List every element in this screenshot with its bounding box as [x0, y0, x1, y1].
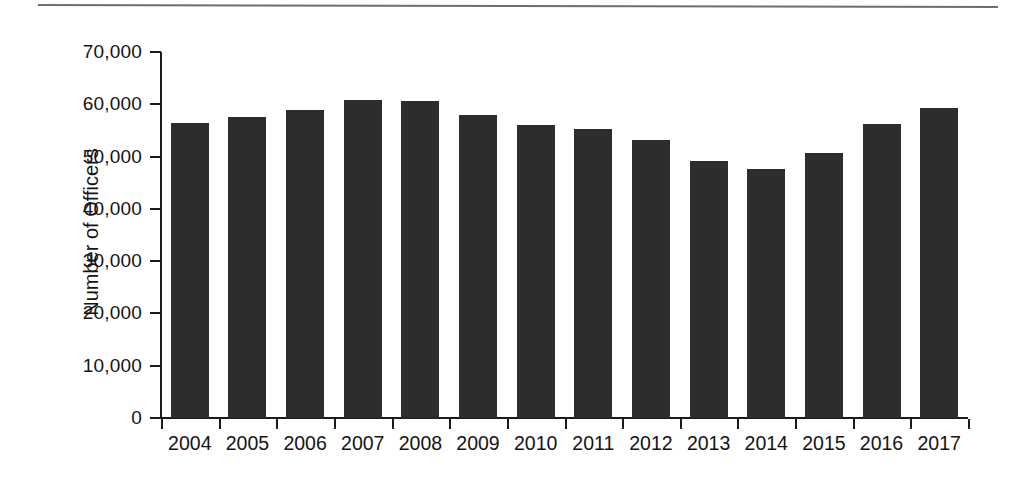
plot-area: Number of Officers 70,00060,00050,00040,…	[0, 0, 1011, 482]
y-axis-tick-label: 30,000	[38, 251, 142, 270]
y-axis-tick-label: 20,000	[38, 303, 142, 322]
y-axis-tick-label: 40,000	[38, 199, 142, 218]
x-axis-tick-mark	[853, 419, 855, 429]
y-axis-tick-mark	[150, 312, 161, 314]
bar	[459, 115, 497, 418]
y-axis-tick-label-wrap: 30,000	[38, 251, 142, 270]
bar	[286, 110, 324, 418]
x-axis-tick-label: 2017	[904, 432, 974, 454]
y-axis-tick-label-wrap: 0	[38, 408, 142, 427]
bar	[401, 101, 439, 418]
x-axis-tick-mark	[507, 419, 509, 429]
figure-bar-chart-number-of-officers: Number of Officers 70,00060,00050,00040,…	[0, 0, 1011, 482]
x-axis-tick-mark	[565, 419, 567, 429]
y-axis-tick-label: 60,000	[38, 94, 142, 113]
bar	[574, 129, 612, 418]
bar	[344, 100, 382, 418]
y-axis-tick-label: 70,000	[38, 42, 142, 61]
bar	[747, 169, 785, 418]
x-axis-tick-mark	[449, 419, 451, 429]
y-axis-tick-label-wrap: 10,000	[38, 356, 142, 375]
y-axis-tick-label: 10,000	[38, 356, 142, 375]
y-axis-tick-mark	[150, 417, 161, 419]
bar	[228, 117, 266, 418]
x-axis-tick-mark	[680, 419, 682, 429]
x-axis-tick-mark	[392, 419, 394, 429]
y-axis-tick-label-wrap: 70,000	[38, 42, 142, 61]
x-axis-tick-mark	[795, 419, 797, 429]
y-axis-tick-label-wrap: 50,000	[38, 147, 142, 166]
x-axis-tick-mark	[910, 419, 912, 429]
bar	[171, 123, 209, 418]
y-axis-tick-mark	[150, 51, 161, 53]
bar	[517, 125, 555, 418]
x-axis-tick-mark	[276, 419, 278, 429]
x-axis-tick-mark	[161, 419, 163, 429]
y-axis-tick-label: 0	[38, 408, 142, 427]
bar	[690, 161, 728, 418]
bar	[863, 124, 901, 418]
bar	[632, 140, 670, 418]
y-axis-tick-mark	[150, 156, 161, 158]
y-axis-tick-mark	[150, 208, 161, 210]
y-axis-title-anchor: Number of Officers	[37, 10, 38, 11]
x-axis-tick-mark	[334, 419, 336, 429]
bar	[920, 108, 958, 418]
x-axis-tick-mark	[622, 419, 624, 429]
y-axis-tick-mark	[150, 103, 161, 105]
x-axis-tick-mark	[737, 419, 739, 429]
x-axis-tick-mark-end	[968, 419, 970, 429]
y-axis-tick-label-wrap: 60,000	[38, 94, 142, 113]
x-axis-tick-mark	[219, 419, 221, 429]
y-axis-tick-label-wrap: 20,000	[38, 303, 142, 322]
bar	[805, 153, 843, 418]
y-axis-tick-mark	[150, 365, 161, 367]
y-axis-tick-label-wrap: 40,000	[38, 199, 142, 218]
y-axis-tick-label: 50,000	[38, 147, 142, 166]
y-axis-tick-mark	[150, 260, 161, 262]
